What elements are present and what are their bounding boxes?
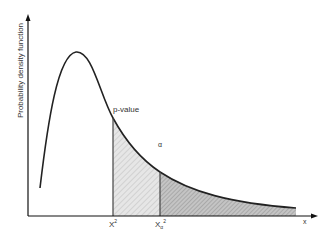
y-axis-arrow-icon <box>26 14 31 21</box>
x-alpha-tick-label: Xα2 <box>155 218 166 230</box>
p-value-label: p-value <box>113 105 139 114</box>
x-axis-arrow-icon <box>311 214 318 219</box>
alpha-label: α <box>158 141 162 148</box>
x2-tick-label: X2 <box>109 218 117 229</box>
chi-square-diagram <box>0 0 329 234</box>
y-axis-label: Probability density function <box>16 16 25 126</box>
alpha-region <box>160 172 296 216</box>
x-axis-label: x <box>303 218 307 225</box>
